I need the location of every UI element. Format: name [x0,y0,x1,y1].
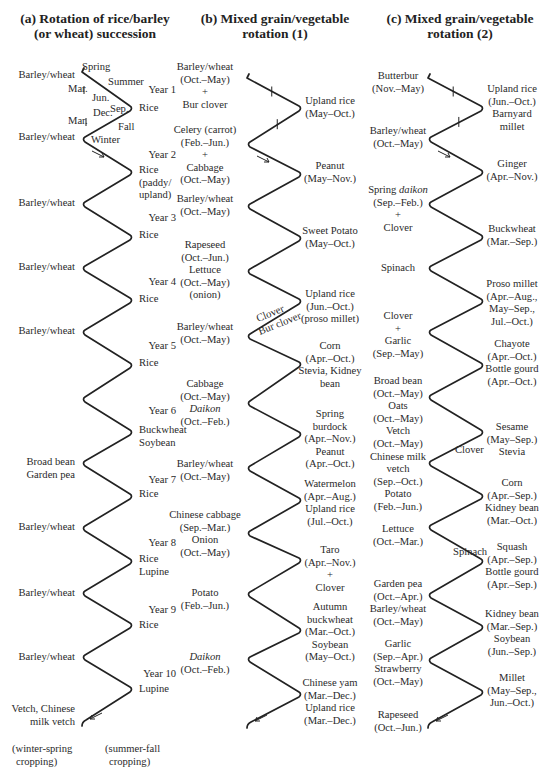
crop-name-text: (Oct.–Jun.) [374,722,422,734]
crop-name-text: (onion) [189,289,221,301]
crop-name-text: buckwheat [307,614,353,625]
left-crop-label: Barley/wheat [19,197,76,208]
left-crop-label: Barley/wheat [19,261,76,272]
crop-name-text: Rice [139,293,159,304]
right-crop-label: RiceLupine [139,553,169,577]
crop-name-text: (Apr.–Nov.) [304,557,356,569]
right-crop-label: Rice [139,229,159,240]
year-label: Year 1 [149,84,176,95]
crop-name-text: Barley/wheat [19,69,76,80]
right-crop-label: Corn(Apr.–Sep.)Kidney bean(Mar.–Oct.) [485,477,540,527]
right-crop-label: Springburdock(Apr.–Nov.)Peanut(Apr.–Oct.… [304,408,356,470]
crop-name-text: (May–Oct.) [305,238,355,250]
footnote-text: (winter-spring [12,743,73,755]
left-crop-label: Clover+Garlic(Sep.–May) [373,310,424,360]
crop-name-text: Upland rice [305,95,355,106]
crop-name-text: (Oct.–May) [373,138,423,150]
crop-rotation-diagram: (a) Rotation of rice/barley(or wheat) su… [0,0,553,770]
left-crop-label: Barley/wheat [19,325,76,336]
left-crop-label: Broad bean(Oct.–May)Oats(Oct.–May)Vetch(… [370,375,427,513]
crop-name-text: (Jun.–Sep.) [488,646,537,658]
right-crop-label: Rice [139,102,159,113]
right-crop-label: Chayote(Apr.–Oct.)Bottle gourd(Apr.–Oct.… [485,338,539,388]
crop-name-text: (Mar.–Dec.) [304,715,356,727]
crop-name-text: Barley/wheat [177,458,234,469]
left-crop-label: Butterbur(Nov.–May) [372,70,424,95]
left-crop-label: Rapeseed(Oct.–Jun.) [374,709,422,734]
crop-name-text: Barley/wheat [19,261,76,272]
crop-name-text: Upland rice [487,83,537,94]
cover-crop-label: Spinach [453,546,488,557]
crop-name-text: (May–Sep., [487,685,536,697]
crop-name-text: Bottle gourd [485,363,539,374]
crop-name-text: milk vetch [30,716,76,727]
footnote-text: cropping) [109,756,151,768]
crop-name-text: (Apr.–Oct.) [488,351,537,363]
crop-name-text: (Nov.–May) [372,83,424,95]
crop-name-text: Barnyard [492,108,532,119]
crop-name-text: Lupine [139,566,169,577]
left-crop-label: Rapeseed(Oct.–Jun.)Lettuce(Oct.–May)(oni… [180,239,230,301]
crop-name-text: Chayote [494,338,530,349]
year-label: Year 5 [149,340,176,351]
crop-name-text: Clover [316,582,345,593]
year-label: Year 6 [149,405,176,416]
crop-name-text: (Apr.–Sep.) [487,490,537,502]
crop-name-text: bean [320,378,341,389]
left-crop-label: Garlic(Sep.–Apr.)Strawberry(Oct.–May) [373,638,423,688]
crop-name-text: Rice [139,553,159,564]
crop-name-text: (Apr.–Aug.) [304,491,356,503]
crop-name-text: Rice [139,164,159,175]
crop-name-text: Ginger [497,158,527,169]
crop-name-text: (Sep.–Apr.) [373,651,423,663]
crop-name-text: Peanut [316,160,345,171]
left-crop-label: Barley/wheat [19,521,76,532]
crop-name-text: (Sep.–Feb.) [373,197,423,209]
left-crop-label: Barley/wheat(Oct.–May) [370,125,427,150]
year-label: Year 10 [143,668,176,679]
panel-title: (c) Mixed grain/vegetablerotation (2) [387,11,534,41]
crop-name-text: Soybean [139,437,176,448]
crop-name-text: Onion [192,534,219,545]
crop-name-text: Chinese cabbage [169,509,241,520]
crop-name-text: Upland rice [305,288,355,299]
crop-name-text: (Sep.–May) [373,348,424,360]
crop-name-text: Corn [319,340,341,351]
crop-name-text: Daikon [188,403,220,414]
crop-name-text: (Apr.–Sep.) [487,554,537,566]
left-crop-label: Barley/wheat(Oct.–May) [177,321,234,346]
right-crop-label: Rice [139,357,159,368]
crop-name-text: Barley/wheat [19,325,76,336]
crop-name-text: Rice [139,102,159,113]
crop-name-text: Soybean [494,633,531,644]
crop-name-text: (Mar.–Oct.) [305,626,355,638]
crop-name-text: Spring daikon [368,184,428,195]
crop-name-text: (Apr.–Oct.) [306,353,355,365]
crop-name-text: (May–Sep.) [487,434,538,446]
right-crop-label: Upland rice(May–Oct.) [305,95,355,120]
crop-name-text: Cabbage [186,378,223,389]
cropping-season-footnote: (winter-springcropping) [12,743,73,768]
crop-name-text: Upland rice [305,503,355,514]
crop-name-text: (Oct.–Feb.) [181,664,230,676]
crop-name-text: (proso millet) [301,313,359,325]
right-crop-label: Autumnbuckwheat(Mar.–Oct.)Soybean(May–Oc… [305,601,355,663]
crop-name-text: (Jul.–Oct.) [307,516,353,528]
crop-name-text: Daikon [188,651,220,662]
crop-name-text: (Sep.–Oct.) [374,476,423,488]
season-label: Winter [91,134,120,145]
crop-name-text: Buckwheat [488,223,536,234]
crop-name-text: Potato [191,587,218,598]
crop-name-text: Lupine [139,683,169,694]
crop-name-text: Strawberry [374,663,422,674]
crop-name-text: Vetch, Chinese [11,703,75,714]
crop-name-text: (Apr.–Nov.) [486,171,538,183]
footnote-text: (summer-fall [105,743,160,755]
direction-arrow-icon [257,156,269,162]
panel-mixed-rotation-1: (b) Mixed grain/vegetablerotation (1)Bar… [169,11,362,728]
crop-name-text: Barley/wheat [19,131,76,142]
crop-name-text: (Apr.–Nov.) [304,433,356,445]
crop-name-text: (Mar.–Oct.) [487,515,537,527]
left-crop-label: Barley/wheat [19,651,76,662]
crop-name-text: Rice [139,619,159,630]
